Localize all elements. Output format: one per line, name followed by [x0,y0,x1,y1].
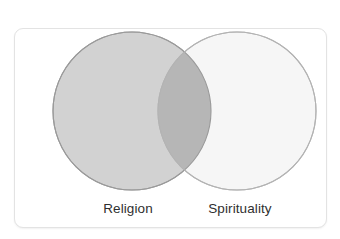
venn-diagram: Religion Spirituality [15,29,327,228]
figure-canvas: Religion Spirituality [0,0,340,239]
venn-svg [15,29,327,228]
venn-label-spirituality: Spirituality [184,202,296,216]
figure-card: Religion Spirituality [14,28,327,228]
venn-label-religion: Religion [85,202,171,216]
